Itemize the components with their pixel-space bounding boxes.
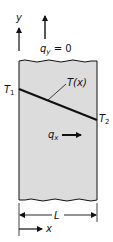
- heat-conduction-diagram: y qy = 0 T(x) T1 T2 qx L x: [0, 0, 113, 242]
- length-label: L: [54, 210, 60, 221]
- y-axis-label: y: [15, 12, 23, 23]
- t2-label: T2: [99, 113, 110, 126]
- tx-label: T(x): [67, 77, 87, 88]
- qy-label: qy = 0: [40, 43, 72, 56]
- x-axis-label: x: [45, 223, 52, 234]
- t1-label: T1: [4, 84, 15, 97]
